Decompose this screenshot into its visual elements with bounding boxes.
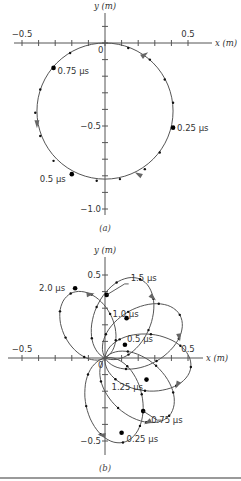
x-tick-label: −0.5 <box>12 29 33 39</box>
position-dot <box>105 333 107 335</box>
position-dot <box>155 365 157 367</box>
position-dot <box>147 329 149 331</box>
position-dot <box>172 391 174 393</box>
position-dot <box>85 405 87 407</box>
position-dot <box>179 314 181 316</box>
position-dot <box>119 178 121 180</box>
position-dot <box>139 425 141 427</box>
position-dot <box>52 160 54 162</box>
position-dot <box>83 356 85 358</box>
position-dot <box>155 360 157 362</box>
position-dot <box>91 337 93 339</box>
label-leader-line <box>107 284 129 295</box>
time-marker-label: 0.5 μs <box>40 174 67 184</box>
x-tick-label: −0.5 <box>12 344 33 354</box>
position-dot <box>87 373 89 375</box>
y-axis-label: y (m) <box>93 1 116 11</box>
position-dot <box>125 368 127 370</box>
time-marker-dot <box>51 66 56 71</box>
trajectory-petal-bottom <box>85 358 143 443</box>
position-dot <box>172 102 174 104</box>
position-dot <box>144 168 146 170</box>
position-dot <box>122 441 124 443</box>
panel-a-plot: −0.50.5−0.5−1.0x (m)y (m)00.25 μs0.5 μs0… <box>0 0 241 240</box>
time-marker-label: 0.25 μs <box>177 123 209 133</box>
position-dot <box>109 313 111 315</box>
position-dot <box>59 310 61 312</box>
x-tick-label: 0.5 <box>181 29 195 39</box>
panel-b-plot: −0.50.50.5−0.5x (m)y (m)00.25 μs0.5 μs0.… <box>0 240 241 480</box>
direction-arrow-icon <box>148 293 155 300</box>
position-dot <box>118 338 120 340</box>
time-marker-dot <box>171 125 176 130</box>
position-dot <box>64 336 66 338</box>
time-marker-label: 0.75 μs <box>58 66 90 76</box>
x-axis-label: x (m) <box>215 38 237 48</box>
position-dot <box>149 58 151 60</box>
position-dot <box>115 339 117 341</box>
position-dot <box>39 88 41 90</box>
position-dot <box>141 393 143 395</box>
time-marker-dot <box>73 286 78 291</box>
position-dot <box>158 303 160 305</box>
position-dot <box>127 47 129 49</box>
y-tick-label: −0.5 <box>80 436 101 446</box>
position-dot <box>69 52 71 54</box>
origin-label: 0 <box>98 45 103 55</box>
panel-caption: (a) <box>99 223 111 233</box>
y-axis-label: y (m) <box>93 245 116 255</box>
y-tick-label: −0.5 <box>80 121 101 131</box>
position-dot <box>114 378 116 380</box>
position-dot <box>117 407 119 409</box>
position-dot <box>144 390 146 392</box>
time-marker-label: 0.75 μs <box>151 415 183 425</box>
time-marker-label: 1.5 μs <box>131 273 158 283</box>
position-dot <box>164 78 166 80</box>
position-dot <box>179 345 181 347</box>
position-dot <box>159 151 161 153</box>
x-axis-label: x (m) <box>206 353 228 363</box>
position-dot <box>100 380 102 382</box>
time-marker-dot <box>119 430 124 435</box>
position-dot <box>127 353 129 355</box>
time-marker-label: 2.0 μs <box>39 283 66 293</box>
direction-arrow-icon <box>86 292 94 297</box>
position-dot <box>39 135 41 137</box>
position-dot <box>126 365 128 367</box>
y-tick-label: −1.0 <box>80 204 101 214</box>
time-marker-label: 1.0 μs <box>113 309 140 319</box>
position-dot <box>115 281 117 283</box>
position-dot <box>70 292 72 294</box>
direction-arrow-icon <box>135 172 143 178</box>
time-marker-label: 0.5 μs <box>127 334 154 344</box>
position-dot <box>95 306 97 308</box>
direction-arrow-icon <box>175 380 181 388</box>
y-tick-label: 0.5 <box>87 270 101 280</box>
direction-arrow-icon <box>176 333 181 341</box>
position-dot <box>34 112 36 114</box>
time-marker-dot <box>144 377 149 382</box>
position-dot <box>127 350 129 352</box>
panel-caption: (b) <box>99 463 111 473</box>
position-dot <box>96 180 98 182</box>
time-marker-label: 0.25 μs <box>127 434 159 444</box>
time-marker-dot <box>70 172 75 177</box>
position-dot <box>190 366 192 368</box>
time-marker-label: 1.25 μs <box>112 382 144 392</box>
